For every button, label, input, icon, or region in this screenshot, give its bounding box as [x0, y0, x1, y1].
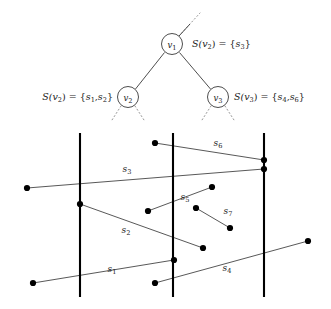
set-label-v2: S(v2) = {s1,s2}: [42, 91, 113, 104]
endpoint-s4-left: [152, 280, 158, 286]
segment-s2[interactable]: [80, 204, 203, 248]
segment-s1[interactable]: [33, 260, 174, 283]
endpoints-group: [24, 140, 311, 286]
segment-label-s2: s2: [122, 225, 131, 237]
endpoint-s7-right: [227, 225, 233, 231]
endpoint-s5-left: [145, 208, 151, 214]
segment-label-s6: s6: [214, 138, 223, 150]
endpoint-s3-left: [24, 185, 30, 191]
endpoint-s3-right: [261, 166, 267, 172]
endpoint-s1-left: [30, 280, 36, 286]
tree-edge-dotted-v3-right: [225, 106, 234, 120]
endpoint-s2-left: [77, 201, 83, 207]
endpoint-s4-right: [305, 238, 311, 244]
endpoint-s6-left: [152, 140, 158, 146]
segment-label-s4: s4: [223, 263, 232, 275]
endpoint-s6-right: [261, 157, 267, 163]
segment-s6[interactable]: [155, 143, 264, 160]
tree-edge-dotted-v2-right: [135, 106, 144, 120]
endpoint-s7-left: [193, 205, 199, 211]
segment-label-s7: s7: [224, 206, 233, 218]
figure-canvas: v1 v2 v3 S(v2) = {s3} S(v2) = {s1,s2} S(…: [0, 0, 331, 309]
endpoint-s5-right: [209, 184, 215, 190]
segment-label-s3: s3: [123, 164, 132, 176]
arrangement-group: s1 s2 s3 s4 s5 s6 s7: [24, 133, 311, 297]
set-label-v1: S(v2) = {s3}: [192, 38, 251, 51]
tree-edge-dotted-v3-left: [202, 106, 211, 120]
segments-group: [27, 143, 308, 283]
segment-label-s1: s1: [108, 264, 117, 276]
tree-edge-v1-up-solid: [179, 24, 190, 36]
tree-edge-dotted-v2-left: [112, 106, 121, 120]
segment-s3[interactable]: [27, 169, 264, 188]
endpoint-s2-right: [200, 245, 206, 251]
endpoint-s1-right: [171, 257, 177, 263]
set-label-v3: S(v3) = {s4,s6}: [234, 91, 305, 104]
tree-edge-v1-v2: [136, 53, 165, 90]
tree-edge-v1-v3: [180, 53, 211, 90]
segment-labels-group: s1 s2 s3 s4 s5 s6 s7: [108, 138, 233, 276]
tree-group: v1 v2 v3 S(v2) = {s3} S(v2) = {s1,s2} S(…: [42, 13, 305, 120]
segment-s4[interactable]: [155, 241, 308, 283]
segment-label-s5: s5: [181, 192, 190, 204]
